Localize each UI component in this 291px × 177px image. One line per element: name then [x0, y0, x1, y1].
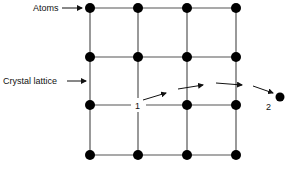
atom	[85, 3, 95, 13]
displaced-atom	[276, 93, 285, 102]
atom	[231, 52, 241, 62]
atom	[231, 150, 241, 160]
atom	[85, 150, 95, 160]
atom	[133, 150, 143, 160]
atom	[182, 52, 192, 62]
lattice-lines	[90, 8, 236, 155]
diffusion-path-arrows	[143, 83, 273, 100]
atoms-label: Atoms	[33, 3, 59, 13]
vacancy-site-label: 1	[135, 101, 140, 111]
atom	[133, 52, 143, 62]
displaced-atom-label: 2	[266, 102, 271, 112]
atom	[85, 52, 95, 62]
crystal-lattice-diagram: Atoms Crystal lattice 1 2	[0, 0, 291, 177]
atom	[85, 100, 95, 110]
atom	[182, 3, 192, 13]
label-arrows	[62, 8, 86, 81]
atom	[231, 3, 241, 13]
crystal-lattice-label: Crystal lattice	[3, 76, 57, 86]
atom	[182, 100, 192, 110]
atom	[133, 3, 143, 13]
atom	[231, 100, 241, 110]
atom	[182, 150, 192, 160]
atoms	[85, 3, 285, 160]
